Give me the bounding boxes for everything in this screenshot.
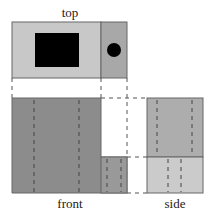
side-view <box>147 98 203 193</box>
black-block <box>35 33 79 67</box>
orthographic-projection-diagram: top front side <box>0 0 214 214</box>
label-side: side <box>165 196 186 211</box>
top-view <box>12 22 127 78</box>
label-top: top <box>62 5 79 20</box>
black-circle <box>107 43 121 57</box>
label-front: front <box>57 196 83 211</box>
front-view <box>12 98 127 193</box>
